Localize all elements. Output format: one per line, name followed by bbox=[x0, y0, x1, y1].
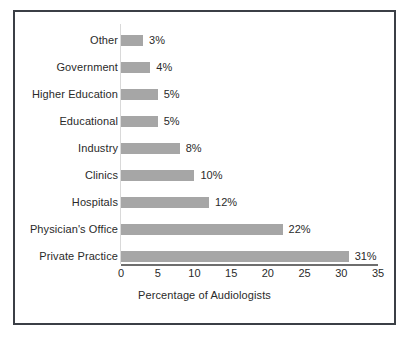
category-label: Hospitals bbox=[72, 189, 118, 216]
x-axis-tick-label: 5 bbox=[155, 267, 161, 279]
category-label: Educational bbox=[59, 108, 118, 135]
bar-track: 3% bbox=[121, 27, 394, 54]
x-axis-tick-label: 15 bbox=[225, 267, 237, 279]
category-label: Private Practice bbox=[39, 243, 118, 270]
category-label: Clinics bbox=[85, 162, 118, 189]
bar-value-label: 31% bbox=[355, 243, 377, 270]
bar-value-label: 5% bbox=[164, 108, 180, 135]
bar bbox=[121, 197, 209, 208]
x-axis-title: Percentage of Audiologists bbox=[15, 289, 394, 301]
chart-frame: Other3%Government4%Higher Education5%Edu… bbox=[13, 10, 396, 325]
bar-track: 12% bbox=[121, 189, 394, 216]
bar-track: 10% bbox=[121, 162, 394, 189]
bar-value-label: 5% bbox=[164, 81, 180, 108]
bar bbox=[121, 62, 150, 73]
bar-row: Clinics10% bbox=[15, 162, 394, 189]
bar-row: Educational5% bbox=[15, 108, 394, 135]
bar-track: 22% bbox=[121, 216, 394, 243]
bar bbox=[121, 224, 283, 235]
bar-row: Industry8% bbox=[15, 135, 394, 162]
figure-root: Other3%Government4%Higher Education5%Edu… bbox=[0, 0, 408, 344]
bar bbox=[121, 251, 349, 262]
bar-value-label: 8% bbox=[186, 135, 202, 162]
bar bbox=[121, 170, 194, 181]
x-axis-tick-label: 35 bbox=[372, 267, 384, 279]
figure-caption bbox=[16, 332, 396, 344]
bar-row: Physician's Office22% bbox=[15, 216, 394, 243]
bar-track: 5% bbox=[121, 108, 394, 135]
bar bbox=[121, 116, 158, 127]
x-axis-tick-labels: 05101520253035 bbox=[121, 267, 378, 285]
bar-value-label: 22% bbox=[289, 216, 311, 243]
bar-value-label: 10% bbox=[200, 162, 222, 189]
bar-track: 4% bbox=[121, 54, 394, 81]
bar-row: Government4% bbox=[15, 54, 394, 81]
bar-track: 5% bbox=[121, 81, 394, 108]
x-axis-tick-label: 10 bbox=[188, 267, 200, 279]
category-label: Physician's Office bbox=[30, 216, 118, 243]
bar bbox=[121, 35, 143, 46]
bar-row: Other3% bbox=[15, 27, 394, 54]
bar-track: 31% bbox=[121, 243, 394, 270]
bar-track: 8% bbox=[121, 135, 394, 162]
category-label: Higher Education bbox=[32, 81, 118, 108]
x-axis-tick-label: 20 bbox=[262, 267, 274, 279]
category-label: Other bbox=[90, 27, 118, 54]
bar-value-label: 3% bbox=[149, 27, 165, 54]
x-axis-tick-label: 30 bbox=[335, 267, 347, 279]
x-axis-tick-label: 25 bbox=[298, 267, 310, 279]
plot-area: Other3%Government4%Higher Education5%Edu… bbox=[15, 12, 394, 323]
bar-row: Hospitals12% bbox=[15, 189, 394, 216]
bar-value-label: 4% bbox=[156, 54, 172, 81]
x-axis-tick-label: 0 bbox=[118, 267, 124, 279]
category-label: Government bbox=[56, 54, 118, 81]
bar-row: Private Practice31% bbox=[15, 243, 394, 270]
bar-row: Higher Education5% bbox=[15, 81, 394, 108]
bar bbox=[121, 143, 180, 154]
bar-value-label: 12% bbox=[215, 189, 237, 216]
category-label: Industry bbox=[78, 135, 118, 162]
bar bbox=[121, 89, 158, 100]
value-axis-line bbox=[121, 264, 378, 266]
